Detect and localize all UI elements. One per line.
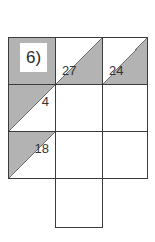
problem-number-box: 6) (20, 43, 47, 72)
grid-cell-r0c0[interactable]: 6) (8, 37, 56, 85)
multiplication-grid: 6) 27 24 4 18 (8, 37, 148, 228)
grid-value-4: 4 (42, 95, 49, 108)
grid-cell-r2c0[interactable]: 18 (8, 131, 56, 179)
grid-cell-r1c1[interactable] (55, 84, 103, 132)
problem-number-label: 6) (26, 48, 41, 68)
grid-cell-r3c1[interactable] (55, 178, 103, 228)
grid-value-18: 18 (35, 142, 49, 155)
grid-value-27: 27 (62, 64, 76, 77)
grid-value-24: 24 (109, 64, 123, 77)
grid-cell-r2c1[interactable] (55, 131, 103, 179)
grid-cell-r0c2[interactable]: 24 (102, 37, 148, 85)
grid-cell-r0c1[interactable]: 27 (55, 37, 103, 85)
worksheet-canvas: 6) 27 24 4 18 (0, 0, 155, 242)
grid-cell-r2c2[interactable] (102, 131, 148, 179)
grid-cell-r1c2[interactable] (102, 84, 148, 132)
grid-cell-r1c0[interactable]: 4 (8, 84, 56, 132)
